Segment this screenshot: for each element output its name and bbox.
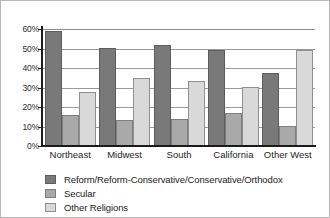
- bar: [208, 50, 225, 146]
- x-axis-tick-label: California: [213, 149, 253, 160]
- x-axis-tick-labels: NortheastMidwestSouthCaliforniaOther Wes…: [43, 149, 315, 165]
- bar: [296, 50, 313, 146]
- y-axis-tick-mark: [38, 146, 42, 147]
- legend-swatch-icon: [45, 189, 56, 198]
- y-axis-line: [41, 26, 43, 147]
- bar: [171, 119, 188, 146]
- bar: [99, 48, 116, 146]
- bar-group: [262, 29, 313, 146]
- bar-group: [99, 29, 150, 146]
- y-axis-tick-mark: [38, 88, 42, 89]
- bar: [116, 120, 133, 146]
- y-axis-tick-label: 30%: [5, 83, 39, 93]
- bar-group: [154, 29, 205, 146]
- bar-group: [45, 29, 96, 146]
- y-axis-tick-mark: [38, 29, 42, 30]
- y-axis-tick-label: 0%: [5, 141, 39, 151]
- legend-label: Other Religions: [64, 202, 128, 213]
- legend-swatch-icon: [45, 203, 56, 212]
- y-axis-tick-label: 20%: [5, 102, 39, 112]
- bar: [188, 81, 205, 146]
- y-axis-tick-mark: [38, 127, 42, 128]
- bar: [45, 31, 62, 146]
- bar: [242, 87, 259, 146]
- x-axis-tick-label: Northeast: [50, 149, 91, 160]
- y-axis-tick-mark: [38, 107, 42, 108]
- x-axis-tick-label: Midwest: [107, 149, 142, 160]
- legend-label: Reform/Reform-Conservative/Conservative/…: [64, 174, 283, 185]
- bar: [262, 73, 279, 146]
- legend-item[interactable]: Secular: [45, 186, 283, 200]
- chart-legend: Reform/Reform-Conservative/Conservative/…: [45, 172, 283, 214]
- bar: [279, 126, 296, 146]
- y-axis-tick-mark: [38, 68, 42, 69]
- x-axis-line: [41, 145, 316, 147]
- y-axis-tick-mark: [38, 49, 42, 50]
- bar: [62, 115, 79, 146]
- bar: [133, 78, 150, 146]
- y-axis-tick-label: 10%: [5, 122, 39, 132]
- bar: [154, 45, 171, 146]
- bar: [225, 113, 242, 146]
- x-axis-tick-label: Other West: [264, 149, 312, 160]
- legend-swatch-icon: [45, 175, 56, 184]
- bar: [79, 92, 96, 146]
- chart-figure: 0%10%20%30%40%50%60% NortheastMidwestSou…: [0, 0, 330, 218]
- y-axis-tick-labels: 0%10%20%30%40%50%60%: [1, 1, 39, 218]
- x-axis-tick-label: South: [167, 149, 192, 160]
- y-axis-tick-label: 40%: [5, 63, 39, 73]
- y-axis-tick-label: 60%: [5, 24, 39, 34]
- legend-label: Secular: [64, 188, 96, 199]
- plot-area: [43, 29, 315, 146]
- y-axis-tick-label: 50%: [5, 44, 39, 54]
- legend-item[interactable]: Other Religions: [45, 200, 283, 214]
- bar-group: [208, 29, 259, 146]
- legend-item[interactable]: Reform/Reform-Conservative/Conservative/…: [45, 172, 283, 186]
